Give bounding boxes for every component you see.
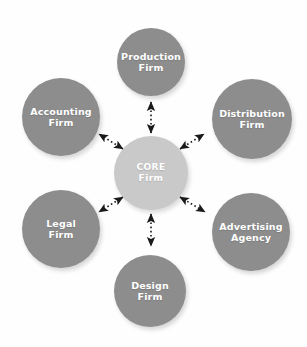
node-label-line1: Advertising [219,221,282,233]
node-label-line2: Agency [231,232,271,244]
node-legal-firm[interactable]: Legal Firm [22,190,100,268]
core-label-line2: Firm [139,173,164,184]
connector-core-distribution [180,134,204,149]
node-label-line2: Firm [138,291,163,303]
node-label-line2: Firm [49,229,74,241]
node-label-line1: Accounting [30,106,92,118]
node-label-line2: Firm [49,117,74,129]
node-core-firm[interactable]: CORE Firm [114,136,188,210]
core-label-line1: CORE [136,162,165,173]
node-production-firm[interactable]: Production Firm [117,28,185,96]
connector-core-advertising [180,197,205,212]
node-advertising-agency[interactable]: Advertising Agency [212,193,290,271]
node-design-firm[interactable]: Design Firm [114,255,186,327]
node-label-line1: Legal [46,218,76,230]
node-label-line1: Production [121,51,181,63]
connector-core-accounting [99,134,123,149]
node-label-line1: Design [131,280,169,292]
node-accounting-firm[interactable]: Accounting Firm [22,78,100,156]
node-distribution-firm[interactable]: Distribution Firm [212,79,292,159]
diagram-canvas: Production Firm Distribution Firm Advert… [0,0,307,347]
connector-core-legal [99,197,123,212]
node-label-line2: Firm [139,62,164,74]
node-label-line2: Firm [240,119,265,131]
node-label-line1: Distribution [219,108,285,120]
